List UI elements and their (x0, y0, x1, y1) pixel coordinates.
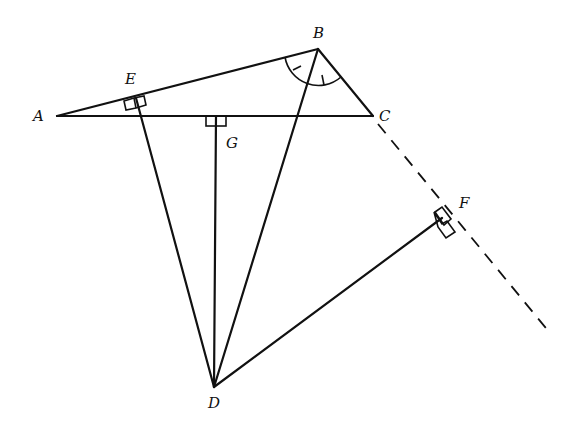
label-b: B (312, 24, 324, 42)
label-e: E (124, 70, 136, 88)
angle-arc-b (285, 57, 341, 85)
label-d: D (207, 394, 220, 412)
label-c: C (379, 107, 391, 125)
segment-de (136, 98, 214, 387)
label-g: G (226, 134, 238, 152)
segment-bd (214, 49, 318, 387)
segment-ab (57, 49, 318, 116)
angle-tick-left (293, 66, 301, 70)
label-f: F (458, 194, 470, 212)
segment-df (214, 218, 442, 387)
segment-dg (214, 116, 216, 387)
geometry-diagram: A B C D E F G (0, 0, 578, 427)
label-a: A (31, 107, 44, 125)
angle-tick-right (322, 75, 324, 85)
extension-line-cf (378, 124, 550, 333)
segment-bc (318, 49, 373, 116)
